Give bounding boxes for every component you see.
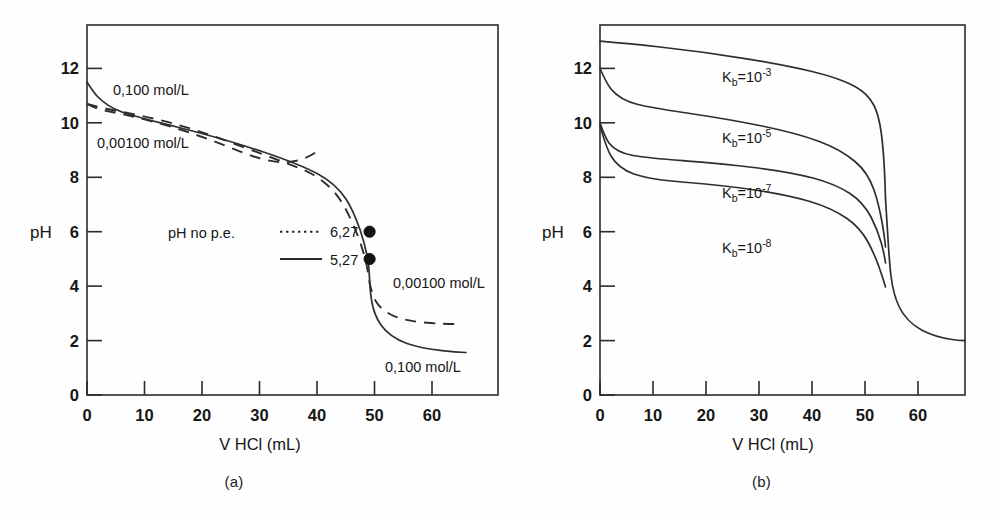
annotation-a-lower-dashed-conc: 0,00100 mol/L xyxy=(393,275,485,291)
x-tick-label-a-40: 40 xyxy=(308,406,326,424)
kb-label-1-eq: =10 xyxy=(738,69,763,85)
y-tick-label-a-8: 8 xyxy=(70,168,79,186)
y-axis-title-a: pH xyxy=(30,223,52,242)
curve-a-dashed xyxy=(87,104,369,281)
y-tick-label-a-0: 0 xyxy=(70,386,79,404)
y-tick-label-b-12: 12 xyxy=(574,59,592,77)
y-tick-label-b-10: 10 xyxy=(574,114,592,132)
annotation-a-upper-conc: 0,00100 mol/L xyxy=(97,135,189,151)
curve-b-common-drop xyxy=(886,199,966,341)
kb-label-3-eq: =10 xyxy=(738,185,763,201)
svg-text:Kb=10-3: Kb=10-3 xyxy=(722,66,772,88)
x-tick-label-a-50: 50 xyxy=(365,406,383,424)
legend-a-dotted-label: 6,27 xyxy=(330,224,358,240)
x-tick-label-b-10: 10 xyxy=(644,406,662,424)
y-tick-label-a-12: 12 xyxy=(61,59,79,77)
curve-a-solid xyxy=(87,82,466,353)
x-tick-label-b-20: 20 xyxy=(697,406,715,424)
kb-label-2-exp: -5 xyxy=(762,127,771,139)
kb-label-4-base: K xyxy=(722,240,732,256)
kb-label-1-base: K xyxy=(722,69,732,85)
x-tick-label-b-30: 30 xyxy=(750,406,768,424)
marker-a-627 xyxy=(364,226,375,237)
y-axis-ticks-a xyxy=(87,68,102,395)
kb-label-2: Kb=10-5 xyxy=(722,127,772,149)
panel-b-caption: (b) xyxy=(514,473,995,490)
x-axis-title-a: V HCl (mL) xyxy=(219,435,301,453)
annotation-a-mid-note: pH no p.e. xyxy=(168,225,235,241)
panel-a: 0 2 4 6 8 10 12 pH 0 10 20 30 40 50 60 V… xyxy=(0,0,500,518)
y-tick-label-b-8: 8 xyxy=(583,168,592,186)
marker-a-527 xyxy=(364,253,375,264)
plot-frame-a xyxy=(87,25,498,395)
x-axis-ticks-a xyxy=(87,381,432,395)
x-tick-label-a-10: 10 xyxy=(135,406,153,424)
y-tick-label-b-0: 0 xyxy=(583,386,592,404)
kb-label-3: Kb=10-7 xyxy=(722,182,772,204)
y-tick-label-b-4: 4 xyxy=(583,277,593,295)
y-axis-ticks-b xyxy=(600,68,615,395)
x-tick-label-a-0: 0 xyxy=(82,406,91,424)
panel-b: 0 2 4 6 8 10 12 pH 0 10 20 30 40 50 60 V… xyxy=(500,0,995,518)
x-tick-label-b-40: 40 xyxy=(803,406,821,424)
y-tick-label-a-4: 4 xyxy=(70,277,80,295)
y-tick-label-a-2: 2 xyxy=(70,332,79,350)
curve-b-kb8 xyxy=(600,126,886,288)
kb-label-3-base: K xyxy=(722,185,732,201)
y-tick-label-b-6: 6 xyxy=(583,223,592,241)
kb-label-2-base: K xyxy=(722,130,732,146)
kb-label-4-exp: -8 xyxy=(762,237,771,249)
annotation-a-top-conc: 0,100 mol/L xyxy=(113,82,189,98)
y-axis-title-b: pH xyxy=(542,223,564,242)
svg-text:Kb=10-5: Kb=10-5 xyxy=(722,127,772,149)
kb-label-4-eq: =10 xyxy=(738,240,763,256)
x-tick-label-b-0: 0 xyxy=(595,406,604,424)
panel-b-plot: 0 2 4 6 8 10 12 pH 0 10 20 30 40 50 60 V… xyxy=(500,0,995,470)
x-tick-label-a-60: 60 xyxy=(423,406,441,424)
svg-text:Kb=10-8: Kb=10-8 xyxy=(722,237,772,259)
x-tick-label-a-30: 30 xyxy=(250,406,268,424)
kb-label-2-eq: =10 xyxy=(738,130,763,146)
kb-label-1: Kb=10-3 xyxy=(722,66,772,88)
x-tick-label-a-20: 20 xyxy=(193,406,211,424)
kb-label-1-exp: -3 xyxy=(762,66,771,78)
kb-label-3-exp: -7 xyxy=(762,182,771,194)
plot-frame-b xyxy=(600,25,965,395)
legend-a-solid-label: 5,27 xyxy=(330,252,358,268)
x-tick-label-b-50: 50 xyxy=(856,406,874,424)
panel-a-caption: (a) xyxy=(0,473,484,490)
y-tick-label-a-6: 6 xyxy=(70,223,79,241)
curve-b-kb3 xyxy=(600,41,886,198)
annotation-a-lower-solid-conc: 0,100 mol/L xyxy=(385,359,461,375)
panel-a-plot: 0 2 4 6 8 10 12 pH 0 10 20 30 40 50 60 V… xyxy=(0,0,500,470)
svg-text:Kb=10-7: Kb=10-7 xyxy=(722,182,772,204)
x-axis-ticks-b xyxy=(600,381,918,395)
x-axis-title-b: V HCl (mL) xyxy=(732,435,814,453)
x-tick-label-b-60: 60 xyxy=(909,406,927,424)
titration-figure: 0 2 4 6 8 10 12 pH 0 10 20 30 40 50 60 V… xyxy=(0,0,995,518)
y-tick-label-b-2: 2 xyxy=(583,332,592,350)
y-tick-label-a-10: 10 xyxy=(61,114,79,132)
kb-label-4: Kb=10-8 xyxy=(722,237,772,259)
